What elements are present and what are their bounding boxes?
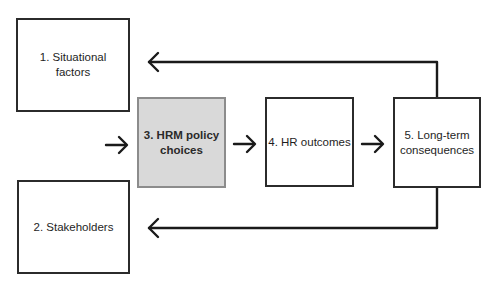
feedback-arrow-to-situational-factors: [149, 53, 437, 97]
box-hr-outcomes: 4. HR outcomes: [265, 97, 354, 187]
box-label: 5. Long-term consequences: [400, 128, 474, 158]
box-label: 4. HR outcomes: [268, 135, 350, 150]
arrow-outcomes-to-consequences: [362, 136, 383, 152]
feedback-arrow-to-stakeholders: [149, 188, 437, 237]
box-label: 3. HRM policy choices: [144, 128, 219, 158]
box-long-term-consequences: 5. Long-term consequences: [393, 97, 481, 188]
box-stakeholders: 2. Stakeholders: [17, 180, 130, 274]
box-situational-factors: 1. Situational factors: [16, 18, 130, 112]
box-label: 1. Situational factors: [40, 50, 107, 80]
box-hrm-policy-choices: 3. HRM policy choices: [137, 97, 226, 188]
arrow-policy-to-outcomes: [234, 136, 255, 152]
box-label: 2. Stakeholders: [34, 220, 114, 235]
arrow-into-hrm-policy-choices: [106, 137, 127, 153]
hrm-model-diagram: 1. Situational factors 2. Stakeholders 3…: [0, 0, 493, 286]
